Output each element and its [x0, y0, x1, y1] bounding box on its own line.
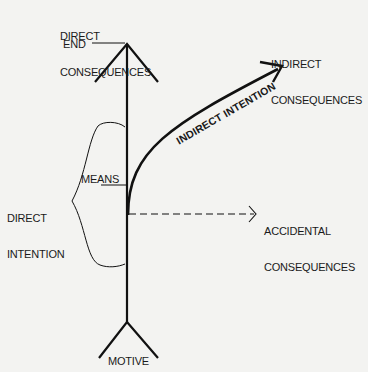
- accidental-consequences-label: ACCIDENTAL CONSEQUENCES: [264, 201, 355, 285]
- indirect-consequences-line1: INDIRECT: [271, 58, 362, 70]
- direct-intention-brace: [72, 122, 125, 266]
- direct-intention-line2: INTENTION: [7, 248, 64, 260]
- indirect-consequences-label: INDIRECT CONSEQUENCES: [271, 34, 362, 118]
- direct-consequences-line2: CONSEQUENCES: [60, 66, 151, 78]
- direct-intention-label: DIRECT INTENTION: [7, 188, 64, 272]
- direct-intention-line1: DIRECT: [7, 212, 64, 224]
- accidental-consequences-line1: ACCIDENTAL: [264, 225, 355, 237]
- motive-label: MOTIVE: [108, 355, 149, 367]
- accidental-consequences-line2: CONSEQUENCES: [264, 261, 355, 273]
- end-label: END: [63, 38, 86, 50]
- motive-fork: [99, 322, 158, 358]
- indirect-consequences-line2: CONSEQUENCES: [271, 94, 362, 106]
- means-label: MEANS: [81, 173, 119, 185]
